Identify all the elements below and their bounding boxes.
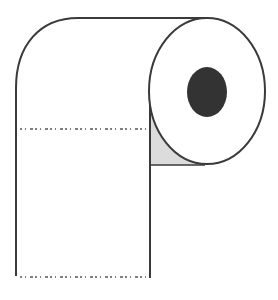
toilet-paper-illustration	[0, 0, 278, 300]
toilet-paper-roll-icon	[0, 0, 278, 300]
core-hole	[187, 67, 227, 117]
